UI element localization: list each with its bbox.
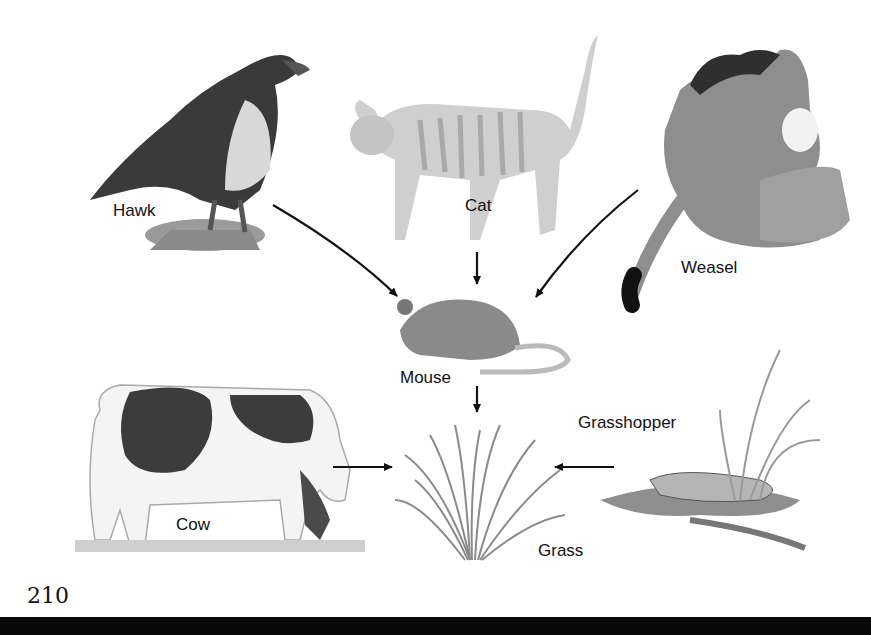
food-web-illustration: [0, 0, 871, 635]
grasshopper-illustration: [600, 350, 820, 548]
arrow-hawk-to-mouse: [273, 205, 397, 296]
grass-illustration: [395, 425, 565, 560]
cow-illustration: [75, 385, 365, 552]
bottom-border: [0, 617, 871, 635]
weasel-label: Weasel: [681, 258, 737, 278]
cow-label: Cow: [176, 515, 210, 535]
grasshopper-label: Grasshopper: [578, 413, 676, 433]
mouse-label: Mouse: [400, 368, 451, 388]
hawk-label: Hawk: [113, 201, 156, 221]
mouse-illustration: [397, 299, 568, 372]
page-number: 210: [27, 583, 69, 608]
hawk-illustration: [90, 55, 310, 251]
cat-label: Cat: [465, 196, 491, 216]
grass-label: Grass: [538, 541, 583, 561]
weasel-illustration: [629, 49, 850, 305]
